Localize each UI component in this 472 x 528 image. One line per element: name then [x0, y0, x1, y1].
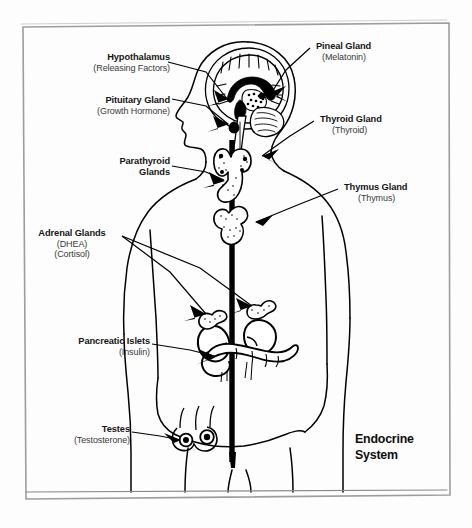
label-parathyroid-glands-title2: Glands	[54, 167, 170, 178]
label-adrenal-glands-title: Adrenal Glands	[22, 228, 122, 239]
label-testes: Testes (Testosterone)	[32, 424, 130, 445]
label-adrenal-glands: Adrenal Glands (DHEA) (Cortisol)	[22, 228, 122, 259]
label-thymus-gland-title: Thymus Gland	[344, 182, 464, 193]
label-thyroid-gland-sub: (Thyroid)	[320, 125, 440, 135]
label-hypothalamus-sub: (Releasing Factors)	[54, 63, 170, 73]
figure-title-line2: System	[355, 448, 414, 464]
label-hypothalamus-title: Hypothalamus	[54, 52, 170, 63]
label-pineal-gland-sub: (Melatonin)	[316, 52, 436, 62]
pituitary-bulb	[229, 122, 239, 133]
parathyroid-dot-2	[243, 157, 247, 161]
label-thymus-gland: Thymus Gland (Thymus)	[344, 182, 464, 203]
figure-title-line1: Endocrine	[355, 432, 414, 448]
label-parathyroid-glands-title: Parathyroid	[54, 156, 170, 167]
parathyroid-dot-3	[220, 170, 224, 174]
label-pituitary-gland-title: Pituitary Gland	[54, 95, 170, 106]
label-parathyroid-glands: Parathyroid Glands	[54, 156, 170, 177]
label-thyroid-gland-title: Thyroid Gland	[320, 114, 440, 125]
figure-title: Endocrine System	[355, 432, 414, 464]
parathyroid-dot-4	[240, 168, 244, 172]
parathyroid-dot-1	[219, 154, 223, 158]
label-testes-title: Testes	[32, 424, 130, 435]
label-thyroid-gland: Thyroid Gland (Thyroid)	[320, 114, 440, 135]
pineal-body	[259, 93, 264, 98]
label-hypothalamus: Hypothalamus (Releasing Factors)	[54, 52, 170, 73]
label-pineal-gland-title: Pineal Gland	[316, 41, 436, 52]
label-adrenal-glands-sub1: (DHEA)	[22, 239, 122, 249]
label-testes-sub: (Testosterone)	[32, 435, 130, 445]
label-pancreatic-islets-title: Pancreatic Islets	[32, 336, 150, 347]
label-pituitary-gland: Pituitary Gland (Growth Hormone)	[54, 95, 170, 116]
label-pancreatic-islets: Pancreatic Islets (Insulin)	[32, 336, 150, 357]
label-pineal-gland: Pineal Gland (Melatonin)	[316, 41, 436, 62]
label-adrenal-glands-sub2: (Cortisol)	[22, 249, 122, 259]
label-pancreatic-islets-sub: (Insulin)	[32, 347, 150, 357]
label-pituitary-gland-sub: (Growth Hormone)	[54, 106, 170, 116]
label-thymus-gland-sub: (Thymus)	[344, 193, 464, 203]
